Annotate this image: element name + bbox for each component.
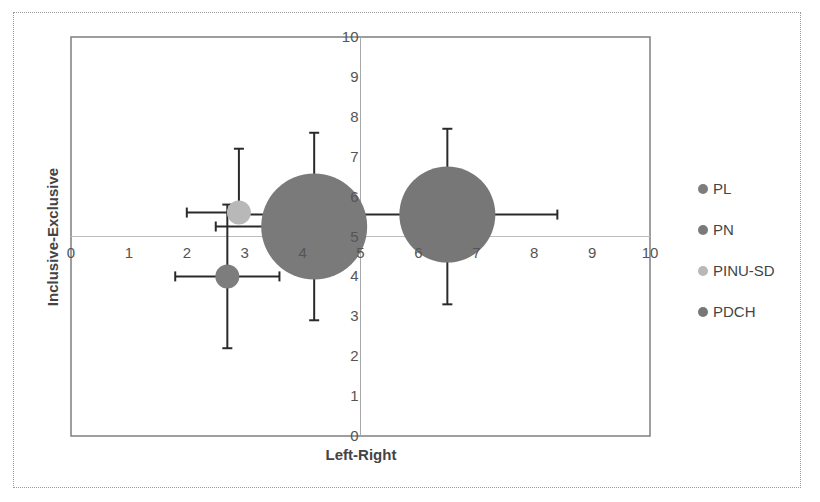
bubble-chart: 012345678910 012345678910 Left-Right Inc… xyxy=(0,0,820,502)
y-axis-title: Inclusive-Exclusive xyxy=(44,168,61,306)
y-tick-label: 6 xyxy=(350,188,358,205)
x-tick-label: 8 xyxy=(530,244,538,261)
x-tick-label: 5 xyxy=(356,244,364,261)
x-tick-label: 1 xyxy=(125,244,133,261)
x-tick-label: 6 xyxy=(414,244,422,261)
x-axis-title: Left-Right xyxy=(326,446,397,463)
y-tick-label: 4 xyxy=(350,267,358,284)
y-tick-label: 7 xyxy=(350,148,358,165)
legend-item-pdch: PDCH xyxy=(698,303,756,320)
bubble-pl xyxy=(215,264,239,288)
x-tick-label: 7 xyxy=(472,244,480,261)
y-tick-label: 5 xyxy=(350,228,358,245)
x-tick-label: 0 xyxy=(67,244,75,261)
bubble-pinu-sd xyxy=(227,201,251,225)
x-tick-label: 4 xyxy=(298,244,306,261)
legend-marker-icon xyxy=(698,266,708,276)
y-tick-label: 2 xyxy=(350,347,358,364)
x-tick-label: 10 xyxy=(642,244,659,261)
legend-item-pn: PN xyxy=(698,221,734,238)
y-tick-label: 8 xyxy=(350,108,358,125)
y-tick-label: 1 xyxy=(350,387,358,404)
y-tick-label: 9 xyxy=(350,68,358,85)
y-tick-label: 3 xyxy=(350,307,358,324)
legend-item-pl: PL xyxy=(698,180,731,197)
legend-label: PN xyxy=(713,221,734,238)
legend-label: PL xyxy=(713,180,731,197)
y-tick-label: 10 xyxy=(342,28,359,45)
y-tick-label: 0 xyxy=(350,427,358,444)
x-tick-label: 9 xyxy=(588,244,596,261)
legend: PLPNPINU-SDPDCH xyxy=(698,180,775,320)
legend-marker-icon xyxy=(698,184,708,194)
legend-marker-icon xyxy=(698,225,708,235)
legend-marker-icon xyxy=(698,307,708,317)
legend-label: PINU-SD xyxy=(713,262,775,279)
legend-item-pinu-sd: PINU-SD xyxy=(698,262,775,279)
legend-label: PDCH xyxy=(713,303,756,320)
x-tick-label: 2 xyxy=(183,244,191,261)
x-tick-label: 3 xyxy=(241,244,249,261)
